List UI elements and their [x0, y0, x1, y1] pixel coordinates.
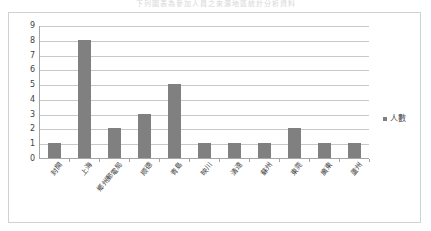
legend-label: 人數 [390, 115, 406, 123]
x-axis-category-label: 清遠 [215, 161, 244, 194]
x-axis-category-label: 青島 [155, 161, 184, 194]
bar [318, 143, 331, 158]
bar [288, 128, 301, 158]
x-axis-category-label: 封開 [35, 161, 64, 194]
y-axis-tick-label: 4 [21, 96, 35, 104]
x-axis-category-label: 蘆州 [335, 161, 364, 194]
x-axis-line [39, 158, 369, 159]
y-axis-tick-label: 0 [21, 155, 35, 163]
x-axis-category-label: 東莞 [275, 161, 304, 194]
bar-series [39, 25, 369, 158]
chart-screenshot: 下列圖表為參加人員之來源地區統計分析資料 0123456789 封開上海鄉州郵電… [0, 0, 431, 231]
chart-frame: 0123456789 封開上海鄉州郵電局顺德青島映川清遠蘇州東莞廣東蘆州 人數 [8, 12, 421, 223]
clipped-page-text: 下列圖表為參加人員之來源地區統計分析資料 [0, 0, 431, 9]
x-axis-category-label: 鄉州郵電局 [95, 161, 124, 194]
y-axis-tick-label: 2 [21, 125, 35, 133]
bar [48, 143, 61, 158]
y-axis-tick-label: 3 [21, 111, 35, 119]
bar [198, 143, 211, 158]
legend-swatch-icon [383, 117, 387, 121]
bar [228, 143, 241, 158]
bar [108, 128, 121, 158]
y-axis-tick-label: 6 [21, 66, 35, 74]
bar [348, 143, 361, 158]
plot-area: 0123456789 [39, 26, 369, 159]
x-axis-category-label: 蘇州 [245, 161, 274, 194]
x-axis-category-labels: 封開上海鄉州郵電局顺德青島映川清遠蘇州東莞廣東蘆州 [39, 161, 369, 213]
y-axis-tick-label: 5 [21, 81, 35, 89]
x-axis-category-label: 上海 [65, 161, 94, 194]
y-axis-tick-label: 1 [21, 140, 35, 148]
bar [78, 40, 91, 158]
chart-legend: 人數 [383, 115, 406, 123]
x-axis-category-label: 廣東 [305, 161, 334, 194]
y-axis-tick-label: 7 [21, 52, 35, 60]
x-axis-category-label: 顺德 [125, 161, 154, 194]
bar [168, 84, 181, 158]
y-axis-tick-label: 8 [21, 37, 35, 45]
bar [138, 114, 151, 158]
bar [258, 143, 271, 158]
x-axis-tick [369, 159, 370, 162]
x-axis-category-label: 映川 [185, 161, 214, 194]
y-axis-tick-label: 9 [21, 22, 35, 30]
